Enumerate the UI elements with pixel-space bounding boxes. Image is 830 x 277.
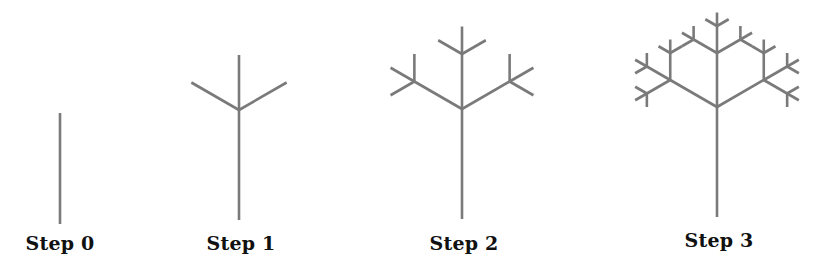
branch-line bbox=[764, 67, 787, 81]
branch-line bbox=[740, 40, 752, 47]
branch-line bbox=[682, 33, 694, 40]
branch-line bbox=[787, 94, 799, 101]
branch-line bbox=[510, 82, 534, 96]
branch-line bbox=[670, 46, 682, 53]
branch-line bbox=[510, 68, 534, 82]
branch-line bbox=[659, 46, 671, 53]
branch-line bbox=[462, 82, 510, 110]
branch-line bbox=[647, 67, 670, 81]
branch-line bbox=[414, 82, 462, 110]
branch-line bbox=[391, 68, 415, 82]
branch-line bbox=[438, 40, 462, 54]
branch-line bbox=[635, 87, 647, 94]
branch-line bbox=[635, 94, 647, 101]
step-2-label: Step 2 bbox=[430, 232, 499, 254]
branch-line bbox=[191, 83, 239, 111]
branch-line bbox=[764, 80, 787, 94]
branch-line bbox=[694, 40, 717, 54]
branch-line bbox=[647, 80, 670, 94]
branch-line bbox=[682, 40, 694, 47]
branch-line bbox=[752, 46, 764, 53]
step-1-label: Step 1 bbox=[207, 232, 276, 254]
branch-line bbox=[717, 80, 764, 107]
branch-line bbox=[740, 33, 752, 40]
tree-step-3 bbox=[635, 13, 799, 218]
branch-line bbox=[670, 80, 717, 107]
branch-line bbox=[462, 40, 486, 54]
branch-line bbox=[635, 60, 647, 67]
branch-line bbox=[635, 67, 647, 74]
tree-step-1 bbox=[191, 55, 286, 220]
branch-line bbox=[764, 46, 776, 53]
branch-line bbox=[239, 83, 287, 111]
tree-step-2 bbox=[391, 27, 534, 220]
branch-line bbox=[787, 67, 799, 74]
branch-line bbox=[705, 19, 717, 26]
step-0-label: Step 0 bbox=[26, 232, 95, 254]
branch-line bbox=[787, 60, 799, 67]
branch-line bbox=[391, 82, 415, 96]
branch-line bbox=[717, 19, 729, 26]
branch-line bbox=[787, 87, 799, 94]
step-3-label: Step 3 bbox=[685, 229, 754, 251]
branch-line bbox=[717, 40, 740, 54]
